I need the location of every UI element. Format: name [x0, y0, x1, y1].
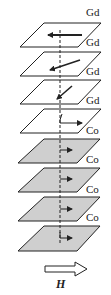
layer-label: Gd: [86, 6, 100, 18]
layer-label: Co: [86, 153, 99, 165]
layer-label: Co: [86, 211, 99, 223]
field-label: H: [55, 277, 66, 291]
layer-label: Gd: [86, 94, 100, 106]
magnetic-multilayer-diagram: Gd Gd Gd Gd Co Co Co Co H: [0, 0, 111, 295]
layer-label: Gd: [86, 65, 100, 77]
layer-label: Co: [86, 183, 99, 195]
layer-8-co: [18, 226, 100, 251]
layer-label: Co: [86, 124, 99, 136]
layer-label: Gd: [86, 36, 100, 48]
hollow-right-arrow-icon: [45, 262, 87, 276]
